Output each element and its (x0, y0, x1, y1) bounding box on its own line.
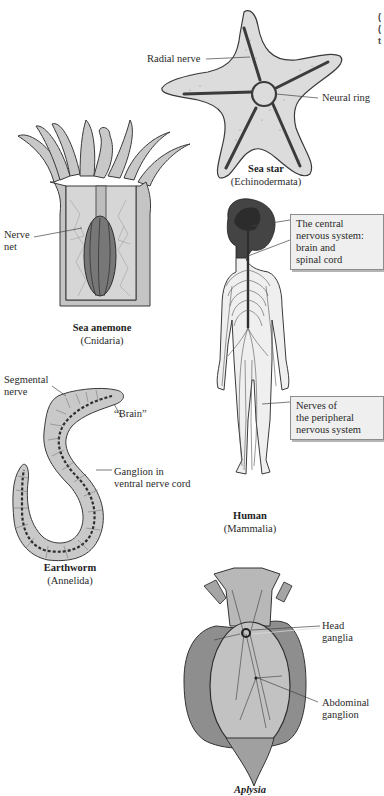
label-neural-ring: Neural ring (322, 92, 370, 104)
caption-sea-anemone-name: Sea anemone (52, 322, 152, 333)
label-brain: “Brain” (114, 408, 147, 420)
caption-human-taxon: (Mammalia) (210, 523, 290, 534)
label-ganglion-ventral-nerve-cord: Ganglion in ventral nerve cord (114, 466, 190, 490)
label-radial-nerve: Radial nerve (147, 53, 200, 65)
sea-star-illustration (162, 11, 342, 178)
caption-sea-anemone-taxon: (Cnidaria) (52, 335, 152, 346)
edge-fragment-1: ( (378, 12, 381, 22)
sea-anemone-illustration (18, 120, 190, 306)
caption-sea-star-name: Sea star (226, 163, 306, 174)
label-peripheral-nervous-system: Nerves of the peripheral nervous system (296, 400, 361, 435)
label-head-ganglia: Head ganglia (322, 620, 353, 644)
caption-sea-star-taxon: (Echinodermata) (216, 176, 316, 187)
label-central-nervous-system: The central nervous system: brain and sp… (296, 218, 364, 265)
caption-aplysia-name: Aplysia (210, 784, 290, 795)
label-abdominal-ganglion: Abdominal ganglion (322, 697, 369, 721)
callout-peripheral-nervous-system: Nerves of the peripheral nervous system (290, 396, 384, 440)
caption-earthworm-taxon: (Annelida) (20, 575, 120, 586)
aplysia-illustration (184, 568, 320, 786)
human-illustration (217, 199, 290, 474)
caption-human-name: Human (210, 510, 290, 521)
caption-earthworm-name: Earthworm (20, 562, 120, 573)
earthworm-illustration (13, 386, 124, 561)
label-segmental-nerve: Segmental nerve (4, 374, 48, 398)
callout-central-nervous-system: The central nervous system: brain and sp… (290, 214, 384, 270)
label-nerve-net: Nerve net (4, 229, 30, 253)
edge-fragment-2: ( (378, 24, 381, 34)
edge-fragment-3: t (378, 36, 381, 46)
